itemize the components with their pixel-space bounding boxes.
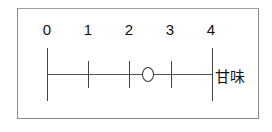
tick-mark-2 [129, 61, 130, 88]
tick-mark-3 [171, 61, 172, 88]
tick-label-2: 2 [121, 21, 137, 38]
tick-label-4: 4 [203, 21, 219, 38]
tick-label-1: 1 [80, 21, 96, 38]
tick-label-3: 3 [162, 21, 178, 38]
circle-marker-icon [142, 67, 154, 82]
axis-label-sweetness: 甘味 [215, 65, 245, 86]
tick-mark-0 [47, 48, 48, 101]
tick-mark-1 [88, 61, 89, 88]
tick-label-0: 0 [39, 21, 55, 38]
tick-mark-4 [212, 48, 213, 101]
